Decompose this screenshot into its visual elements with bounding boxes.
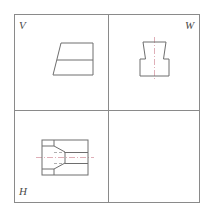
view-label-h: H: [19, 186, 27, 197]
v-outline: [53, 43, 93, 75]
view-label-w: W: [185, 20, 194, 31]
view-v-front: [53, 43, 93, 75]
view-w-side: [140, 37, 169, 81]
view-h-top: [36, 140, 94, 175]
orthographic-drawing: [0, 0, 211, 212]
drawing-canvas: V W H: [0, 0, 211, 212]
view-label-v: V: [19, 20, 26, 31]
